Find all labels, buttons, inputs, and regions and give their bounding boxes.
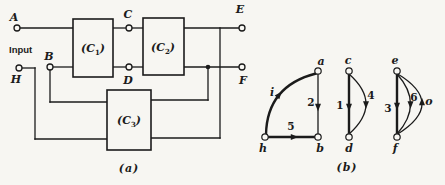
node-b-label: b (316, 142, 324, 155)
edge-6-label: 6 (410, 91, 417, 103)
edge-4-label: 4 (367, 89, 374, 101)
block-c1-label: (C1) (81, 42, 105, 57)
node-a-label: a (317, 55, 324, 68)
node-f-label: f (392, 142, 400, 155)
terminal-f (239, 64, 245, 70)
block-c3-label: (C3) (117, 114, 141, 129)
terminal-b-label: B (43, 50, 53, 63)
terminal-a (14, 25, 20, 31)
node-d (346, 134, 352, 140)
block-diagram-a: (C1) (C2) (C3) A B C D E F H Input (a) (9, 3, 248, 175)
block-c2-label: (C2) (151, 41, 175, 56)
node-b (315, 134, 321, 140)
node-h-label: h (259, 142, 267, 155)
caption-b: (b) (336, 161, 357, 174)
figure-svg: (C1) (C2) (C3) A B C D E F H Input (a) (0, 0, 445, 185)
edge-2-arrow (315, 104, 321, 111)
terminal-d-label: D (122, 74, 133, 87)
edge-2-label: 2 (307, 96, 314, 108)
caption-a: (a) (119, 162, 140, 175)
node-c (346, 68, 352, 74)
terminal-b (47, 64, 53, 70)
figure-canvas: (C1) (C2) (C3) A B C D E F H Input (a) (0, 0, 445, 185)
terminal-e (239, 25, 245, 31)
node-d-label: d (345, 142, 353, 155)
edge-5-label: 5 (287, 120, 294, 132)
terminal-c-label: C (124, 8, 133, 21)
edge-1-arrow (346, 104, 352, 111)
node-e (394, 68, 400, 74)
terminal-c (126, 25, 132, 31)
terminal-h-label: H (10, 73, 22, 86)
edge-1-label: 1 (336, 99, 343, 111)
node-f (394, 134, 400, 140)
terminal-h (16, 65, 22, 71)
node-a (315, 68, 321, 74)
terminal-d (126, 64, 132, 70)
edge-i-label: i (270, 86, 274, 99)
terminal-f-label: F (238, 74, 248, 87)
input-label: Input (9, 44, 33, 55)
node-c-label: c (345, 54, 352, 67)
edge-4-arrow (363, 101, 369, 108)
edge-o-label: o (425, 95, 432, 108)
node-h (262, 134, 268, 140)
terminal-e-label: E (235, 3, 245, 16)
edge-o-arrow (419, 98, 425, 105)
edge-3-label: 3 (384, 102, 391, 114)
node-e-label: e (392, 54, 399, 67)
graph-b: a b h c d e f i 2 5 1 4 3 6 o (b) (259, 54, 433, 174)
edge-3-arrow (394, 103, 400, 110)
terminal-a-label: A (9, 11, 19, 24)
edge-5-arrow (291, 134, 298, 140)
junction-dot (206, 65, 211, 70)
